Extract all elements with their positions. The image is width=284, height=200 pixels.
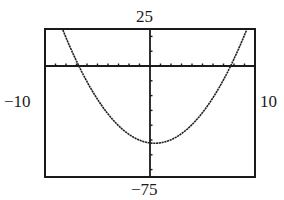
graph-plot (0, 0, 284, 200)
ymin-label: −75 (131, 181, 158, 198)
xmax-label: 10 (260, 93, 277, 110)
ymax-label: 25 (136, 8, 153, 25)
parabola-curve (63, 30, 247, 143)
xmin-label: −10 (4, 93, 31, 110)
